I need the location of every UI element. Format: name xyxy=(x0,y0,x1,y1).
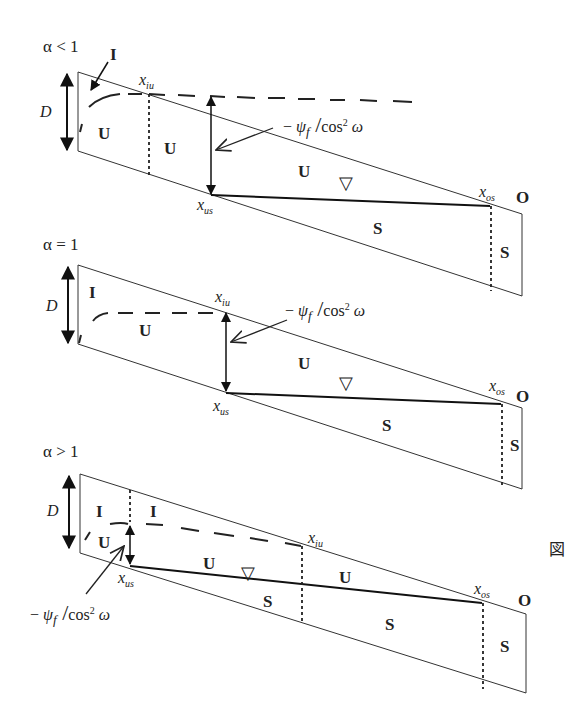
zone-label-saturated: S xyxy=(385,616,394,633)
zone-label-unsaturated: U xyxy=(298,355,310,372)
water-table-line xyxy=(226,393,501,404)
outlet-label: O xyxy=(518,592,531,609)
water-table-line xyxy=(211,195,490,206)
figure-mark: 図 xyxy=(549,542,565,558)
zone-label-saturated: S xyxy=(382,417,391,434)
zone-label-saturated: S xyxy=(510,437,519,454)
water-table-symbol: ▽ xyxy=(339,374,353,392)
psi-pointer-arrow xyxy=(216,128,273,150)
zone-label-unsaturated: U xyxy=(298,163,310,180)
depth-label: D xyxy=(46,298,58,314)
water-table-symbol: ▽ xyxy=(241,564,255,582)
psi-cos-label: − ψf /cos2 ω xyxy=(30,602,110,627)
case-label: α < 1 xyxy=(43,38,79,55)
infiltration-pointer-arrow xyxy=(91,62,108,90)
zone-label-unsaturated: U xyxy=(203,555,215,572)
x-iu-label: xiu xyxy=(215,289,230,308)
case-label: α > 1 xyxy=(43,443,79,460)
water-table-line xyxy=(130,566,482,603)
wetting-front-dashed xyxy=(85,523,301,546)
zone-label-infiltration: I xyxy=(110,46,117,63)
hillslope-parallelogram xyxy=(78,72,522,296)
zone-label-unsaturated: U xyxy=(98,125,110,142)
panel-alpha-lt-1 xyxy=(67,62,522,296)
x-us-label: xus xyxy=(213,398,229,417)
zone-label-unsaturated: U xyxy=(164,140,176,157)
depth-label: D xyxy=(40,104,52,120)
x-os-label: xos xyxy=(479,184,495,203)
outlet-label: O xyxy=(516,189,529,206)
zone-label-unsaturated: U xyxy=(339,569,351,586)
zone-label-unsaturated: U xyxy=(98,534,110,551)
x-os-label: xos xyxy=(474,581,490,600)
zone-label-unsaturated: U xyxy=(139,322,151,339)
zone-label-saturated: S xyxy=(500,244,509,261)
zone-label-saturated: S xyxy=(263,593,272,610)
depth-label: D xyxy=(47,503,59,519)
x-os-label: xos xyxy=(489,378,505,397)
x-iu-label: xiu xyxy=(308,530,323,549)
x-us-label: xus xyxy=(118,570,134,589)
zone-label-saturated: S xyxy=(373,220,382,237)
zone-label-saturated: S xyxy=(500,638,509,655)
psi-cos-label: − ψf /cos2 ω xyxy=(285,298,365,323)
x-iu-label: xiu xyxy=(139,72,154,91)
zone-label-infiltration: I xyxy=(89,284,96,301)
panel-alpha-gt-1 xyxy=(69,474,526,693)
zone-label-infiltration: I xyxy=(96,503,103,520)
x-us-label: xus xyxy=(197,197,213,216)
case-label: α = 1 xyxy=(43,236,79,253)
psi-cos-label: − ψf /cos2 ω xyxy=(283,114,363,139)
outlet-label: O xyxy=(516,388,529,405)
water-table-symbol: ▽ xyxy=(339,174,353,192)
zone-label-infiltration: I xyxy=(150,503,157,520)
